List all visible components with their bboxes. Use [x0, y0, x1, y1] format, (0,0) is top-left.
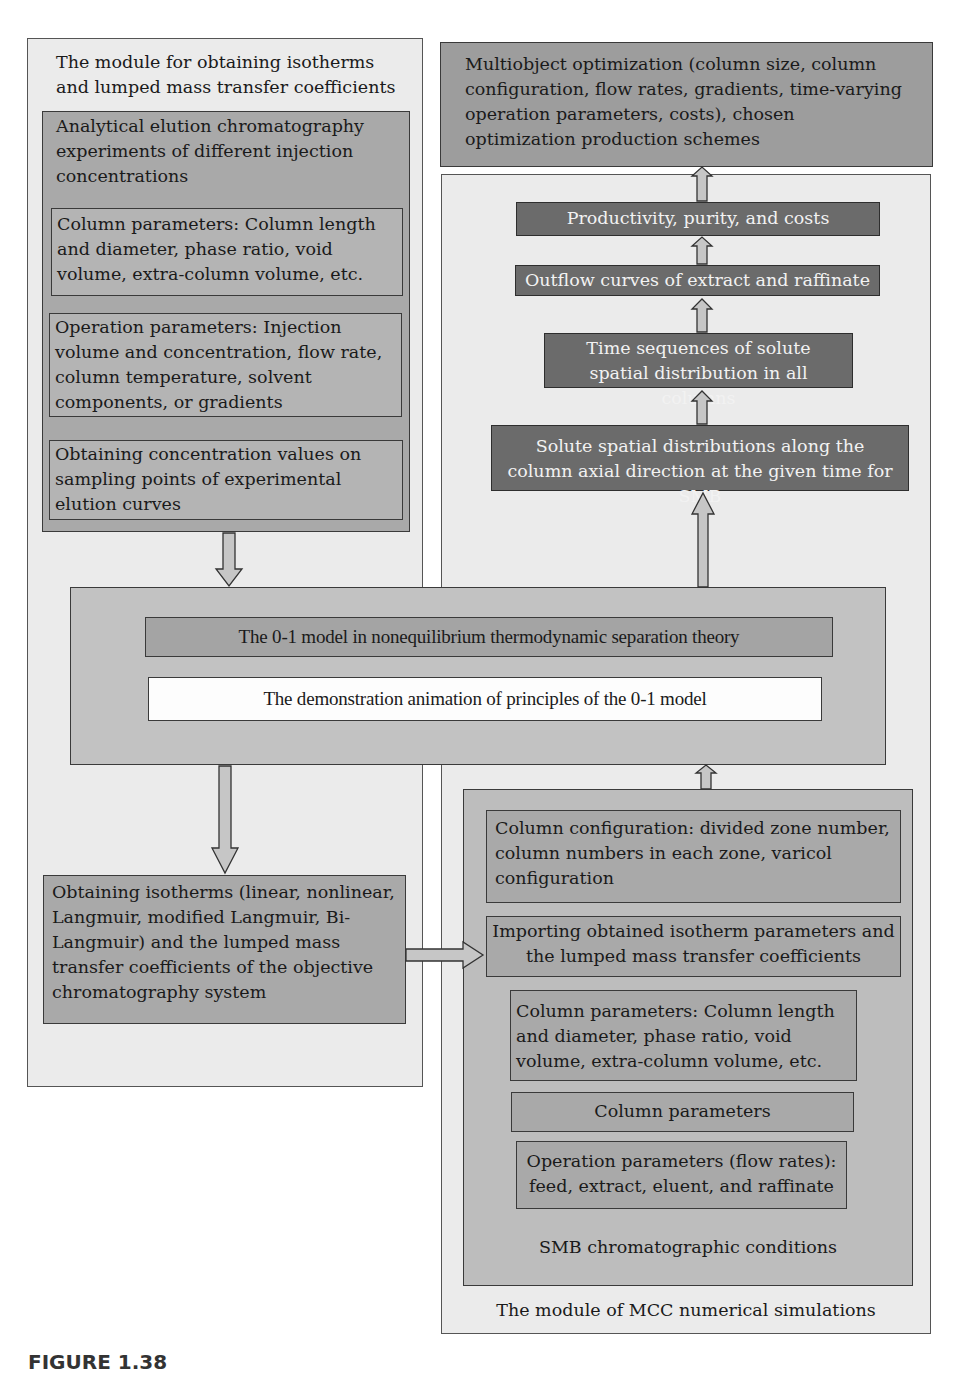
arrow-down-icon — [210, 765, 240, 875]
model-box — [70, 587, 886, 765]
operation-params-box: Operation parameters: Injection volume a… — [49, 313, 402, 417]
experiments-title: Analytical elution chromatography experi… — [56, 114, 376, 189]
outflow-box: Outflow curves of extract and raffinate — [515, 265, 880, 296]
smb-conditions-title: SMB chromatographic conditions — [463, 1235, 913, 1260]
model-animation-box[interactable]: The demonstration animation of principle… — [148, 677, 822, 721]
concentration-values-box: Obtaining concentration values on sampli… — [49, 440, 403, 520]
arrow-up-icon — [694, 764, 718, 790]
column-config-box: Column configuration: divided zone numbe… — [486, 810, 901, 903]
smb-column-params-box: Column parameters — [511, 1092, 854, 1132]
isotherms-box: Obtaining isotherms (linear, nonlinear, … — [43, 875, 406, 1024]
arrow-up-icon — [690, 166, 714, 202]
arrow-right-icon — [405, 940, 485, 970]
arrow-up-icon — [690, 492, 716, 588]
arrow-up-icon — [690, 390, 714, 425]
optimization-box: Multiobject optimization (column size, c… — [440, 42, 933, 167]
arrow-up-icon — [690, 298, 714, 333]
arrow-up-icon — [690, 236, 714, 265]
figure-caption: FIGURE 1.38 — [28, 1350, 167, 1373]
model-title-box: The 0-1 model in nonequilibrium thermody… — [145, 617, 833, 657]
column-params-box: Column parameters: Column length and dia… — [51, 208, 403, 296]
spatial-distributions-box: Solute spatial distributions along the c… — [491, 425, 909, 491]
arrow-down-icon — [214, 532, 244, 588]
importing-box: Importing obtained isotherm parameters a… — [486, 916, 901, 977]
smb-column-params-detail-box: Column parameters: Column length and dia… — [510, 990, 857, 1081]
left-module-title: The module for obtaining isotherms and l… — [56, 50, 401, 100]
time-sequences-box: Time sequences of solute spatial distrib… — [544, 333, 853, 388]
productivity-box: Productivity, purity, and costs — [516, 202, 880, 236]
smb-operation-params-box: Operation parameters (flow rates): feed,… — [516, 1141, 847, 1209]
right-module-title: The module of MCC numerical simulations — [441, 1298, 931, 1323]
